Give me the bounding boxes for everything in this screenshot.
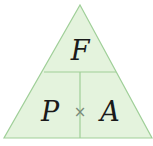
multiply-operator: × — [74, 103, 87, 121]
label-pressure: P — [40, 96, 60, 127]
formula-triangle: F P × A — [0, 0, 153, 146]
label-force: F — [70, 35, 91, 66]
label-area: A — [97, 96, 120, 127]
